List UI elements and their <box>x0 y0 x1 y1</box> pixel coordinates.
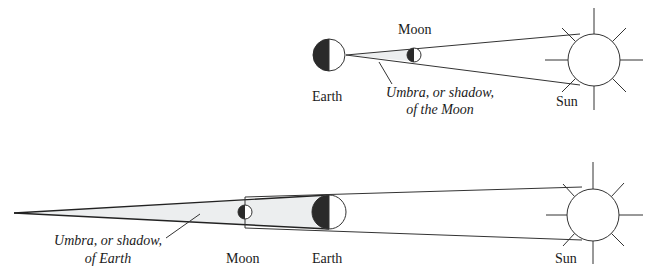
earth-top <box>313 39 345 71</box>
solar-eclipse-diagram: Moon Earth Umbra, or shadow, of the Moon… <box>312 8 643 117</box>
earth-label-bottom: Earth <box>312 251 342 266</box>
moon-label-top: Moon <box>398 22 431 37</box>
moon-bottom <box>238 205 252 219</box>
lower-ray-line <box>346 55 580 85</box>
sun-label-top: Sun <box>556 94 578 109</box>
lunar-eclipse-diagram: Umbra, or shadow, of Earth Moon Earth Su… <box>14 162 643 266</box>
moon-label-bottom: Moon <box>226 251 259 266</box>
umbra-label-top-line2: of the Moon <box>406 102 474 117</box>
eclipse-diagram: Moon Earth Umbra, or shadow, of the Moon… <box>0 0 651 273</box>
lower-ray-line-bottom <box>245 228 582 240</box>
sun-label-bottom: Sun <box>555 251 577 266</box>
umbra-label-bottom-line1: Umbra, or shadow, <box>54 233 162 248</box>
upper-ray-line-bottom <box>245 187 582 197</box>
umbra-label-bottom-line2: of Earth <box>85 251 131 266</box>
upper-ray-line <box>346 34 580 55</box>
moon-top <box>407 48 421 62</box>
umbra-label-top-line1: Umbra, or shadow, <box>386 85 494 100</box>
earth-umbra-shade <box>14 195 329 229</box>
earth-label-top: Earth <box>312 89 342 104</box>
earth-bottom <box>312 195 346 229</box>
sun-bottom <box>546 162 643 264</box>
umbra-leader-line-top <box>379 62 392 84</box>
